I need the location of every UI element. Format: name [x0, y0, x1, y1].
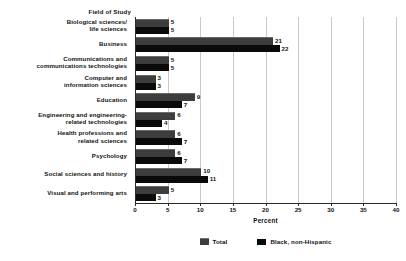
- bar: [136, 176, 208, 183]
- x-tick-label: 25: [288, 206, 308, 213]
- bar: [136, 64, 169, 71]
- bar: [136, 83, 156, 90]
- bar-value-label: 3: [158, 194, 161, 201]
- category-label: Engineering and engineering-related tech…: [0, 111, 131, 126]
- bar: [136, 56, 169, 64]
- bar-value-label: 6: [177, 111, 180, 118]
- bar: [136, 112, 175, 120]
- category-label-line: Biological sciences/: [0, 18, 127, 26]
- bar-value-label: 7: [184, 157, 187, 164]
- bar-group: 97: [136, 93, 397, 108]
- bar-chart: Field of Study Biological sciences/life …: [0, 0, 406, 261]
- legend-label: Total: [213, 238, 228, 245]
- legend-label: Black, non-Hispanic: [270, 238, 331, 245]
- x-tick-label: 20: [256, 206, 276, 213]
- x-tick-label: 30: [321, 206, 341, 213]
- category-label-line: Visual and performing arts: [0, 189, 127, 197]
- category-label-line: communications technologies: [0, 62, 127, 70]
- x-tick-label: 40: [386, 206, 406, 213]
- bar-value-label: 7: [184, 138, 187, 145]
- category-label-line: Computer and: [0, 74, 127, 82]
- category-label-line: Health professions and: [0, 129, 127, 137]
- category-label: Psychology: [0, 152, 131, 160]
- bar-value-label: 22: [282, 45, 289, 52]
- legend-item[interactable]: Black, non-Hispanic: [257, 238, 331, 245]
- category-label: Communications andcommunications technol…: [0, 55, 131, 70]
- bar: [136, 45, 280, 52]
- x-tick-label: 35: [353, 206, 373, 213]
- bar-group: 2122: [136, 37, 397, 52]
- bar-value-label: 5: [171, 18, 174, 25]
- bar-group: 55: [136, 19, 397, 34]
- bar: [136, 101, 182, 108]
- bar: [136, 37, 273, 45]
- bar-group: 1011: [136, 168, 397, 183]
- legend-item[interactable]: Total: [200, 238, 228, 245]
- bar-value-label: 11: [210, 175, 217, 182]
- bar: [136, 130, 175, 138]
- category-label: Computer andinformation sciences: [0, 74, 131, 89]
- bar: [136, 186, 169, 194]
- bar: [136, 149, 175, 157]
- bar: [136, 27, 169, 34]
- category-label: Education: [0, 96, 131, 104]
- category-label-line: Social sciences and history: [0, 170, 127, 178]
- bar: [136, 157, 182, 164]
- bar-value-label: 5: [171, 64, 174, 71]
- bar-group: 67: [136, 149, 397, 164]
- legend-swatch-icon: [257, 239, 266, 245]
- category-label-line: Communications and: [0, 55, 127, 63]
- bar-group: 67: [136, 130, 397, 145]
- category-label: Business: [0, 40, 131, 48]
- plot-area: 552122553397646767101153: [135, 17, 396, 203]
- bar-group: 64: [136, 112, 397, 127]
- category-label: Health professions andrelated sciences: [0, 129, 131, 144]
- bar-group: 53: [136, 186, 397, 201]
- category-label-line: Engineering and engineering-: [0, 111, 127, 119]
- x-tick-label: 15: [223, 206, 243, 213]
- bar-value-label: 5: [171, 186, 174, 193]
- bar-value-label: 5: [171, 26, 174, 33]
- bar: [136, 19, 169, 27]
- category-label-line: life sciences: [0, 25, 127, 33]
- bar-value-label: 6: [177, 149, 180, 156]
- bar-group: 33: [136, 75, 397, 90]
- bar-value-label: 7: [184, 101, 187, 108]
- category-label-line: related technologies: [0, 118, 127, 126]
- bar-value-label: 10: [203, 167, 210, 174]
- bar-value-label: 9: [197, 93, 200, 100]
- category-label-line: Education: [0, 96, 127, 104]
- bar: [136, 168, 201, 176]
- category-label-line: related sciences: [0, 137, 127, 145]
- category-label: Biological sciences/life sciences: [0, 18, 131, 33]
- bar-value-label: 5: [171, 56, 174, 63]
- category-label-line: Business: [0, 40, 127, 48]
- category-axis-header: Field of Study: [0, 8, 131, 15]
- x-axis-title: Percent: [135, 217, 396, 224]
- legend-swatch-icon: [200, 238, 209, 245]
- bar-value-label: 3: [158, 74, 161, 81]
- x-tick-label: 5: [158, 206, 178, 213]
- x-tick-label: 0: [125, 206, 145, 213]
- bar-value-label: 4: [164, 119, 167, 126]
- bar-value-label: 21: [275, 37, 282, 44]
- bar: [136, 194, 156, 201]
- chart-legend: TotalBlack, non-Hispanic: [135, 238, 396, 245]
- bar: [136, 120, 162, 127]
- bar-group: 55: [136, 56, 397, 71]
- bar-value-label: 3: [158, 82, 161, 89]
- category-label-line: Psychology: [0, 152, 127, 160]
- bar: [136, 138, 182, 145]
- x-tick-label: 10: [190, 206, 210, 213]
- category-label: Visual and performing arts: [0, 189, 131, 197]
- category-label: Social sciences and history: [0, 170, 131, 178]
- bar-value-label: 6: [177, 130, 180, 137]
- category-label-line: information sciences: [0, 81, 127, 89]
- bar: [136, 75, 156, 83]
